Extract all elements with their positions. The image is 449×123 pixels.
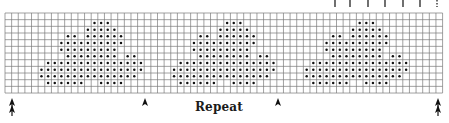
- stitch-dot: [87, 48, 90, 51]
- stitch-dot: [179, 75, 182, 78]
- stitch-dot: [87, 28, 90, 31]
- stitch-dot: [80, 48, 83, 51]
- stitch-dot: [378, 35, 381, 38]
- single-arrow-icon: [142, 98, 148, 106]
- stitch-dot: [312, 62, 315, 65]
- stitch-dot: [378, 55, 381, 58]
- stitch-dot: [272, 62, 275, 65]
- stitch-dot: [345, 82, 348, 85]
- stitch-dot: [107, 68, 110, 71]
- stitch-dot: [385, 82, 388, 85]
- stitch-dot: [345, 48, 348, 51]
- stitch-dot: [339, 48, 342, 51]
- stitch-dot: [239, 62, 242, 65]
- stitch-dot: [319, 75, 322, 78]
- stitch-dot: [392, 68, 395, 71]
- stitch-dot: [372, 28, 375, 31]
- stitch-dot: [312, 82, 315, 85]
- stitch-dot: [365, 68, 368, 71]
- stitch-dot: [365, 22, 368, 25]
- stitch-dot: [372, 82, 375, 85]
- stitch-dot: [365, 82, 368, 85]
- stitch-dot: [120, 62, 123, 65]
- stitch-dot: [107, 62, 110, 65]
- stitch-dot: [378, 48, 381, 51]
- stitch-dot: [53, 82, 56, 85]
- stitch-dot: [206, 62, 209, 65]
- stitch-dot: [385, 62, 388, 65]
- stitch-dot: [365, 28, 368, 31]
- stitch-dot: [73, 48, 76, 51]
- stitch-dot: [232, 28, 235, 31]
- stitch-dot: [345, 68, 348, 71]
- stitch-dot: [126, 62, 129, 65]
- stitch-dot: [345, 42, 348, 45]
- stitch-dot: [339, 55, 342, 58]
- stitch-dot: [186, 68, 189, 71]
- stitch-dot: [199, 82, 202, 85]
- stitch-dot: [80, 75, 83, 78]
- stitch-dot: [219, 28, 222, 31]
- stitch-dot: [272, 68, 275, 71]
- stitch-dot: [325, 48, 328, 51]
- stitch-dot: [107, 82, 110, 85]
- stitch-dot: [107, 48, 110, 51]
- stitch-dot: [60, 68, 63, 71]
- stitch-dot: [266, 55, 269, 58]
- stitch-dot: [358, 42, 361, 45]
- stitch-dot: [206, 82, 209, 85]
- stitch-dot: [372, 22, 375, 25]
- stitch-dot: [100, 62, 103, 65]
- stitch-dot: [226, 68, 229, 71]
- stitch-dot: [239, 75, 242, 78]
- stitch-dot: [126, 55, 129, 58]
- stitch-dot: [87, 68, 90, 71]
- stitch-dot: [93, 68, 96, 71]
- stitch-dot: [239, 55, 242, 58]
- stitch-dot: [372, 35, 375, 38]
- stitch-dot: [213, 68, 216, 71]
- stitch-dot: [232, 68, 235, 71]
- stitch-dot: [252, 68, 255, 71]
- stitch-dot: [246, 75, 249, 78]
- stitch-dot: [100, 75, 103, 78]
- stitch-dot: [199, 55, 202, 58]
- stitch-dot: [100, 22, 103, 25]
- stitch-dot: [405, 68, 408, 71]
- stitch-dot: [239, 28, 242, 31]
- stitch-dot: [365, 42, 368, 45]
- stitch-dot: [232, 55, 235, 58]
- stitch-dot: [100, 42, 103, 45]
- stitch-dot: [67, 55, 70, 58]
- stitch-dot: [266, 75, 269, 78]
- stitch-dot: [186, 62, 189, 65]
- stitch-dot: [47, 82, 50, 85]
- stitch-dot: [226, 62, 229, 65]
- stitch-dot: [226, 42, 229, 45]
- stitch-dot: [372, 48, 375, 51]
- stitch-dot: [332, 55, 335, 58]
- stitch-dot: [100, 28, 103, 31]
- stitch-dot: [345, 62, 348, 65]
- double-arrow-icon: [435, 98, 441, 116]
- stitch-dot: [358, 35, 361, 38]
- stitch-dot: [358, 28, 361, 31]
- stitch-dot: [252, 82, 255, 85]
- stitch-dot: [378, 62, 381, 65]
- stitch-dot: [173, 75, 176, 78]
- stitch-dot: [325, 42, 328, 45]
- stitch-dot: [67, 35, 70, 38]
- stitch-dot: [80, 62, 83, 65]
- stitch-dot: [345, 75, 348, 78]
- stitch-dot: [199, 48, 202, 51]
- stitch-dot: [60, 75, 63, 78]
- stitch-dot: [40, 68, 43, 71]
- stitch-dot: [140, 62, 143, 65]
- stitch-dot: [239, 22, 242, 25]
- stitch-dot: [372, 42, 375, 45]
- stitch-dot: [378, 68, 381, 71]
- stitch-dot: [352, 28, 355, 31]
- stitch-dot: [339, 82, 342, 85]
- top-tick-marks: [335, 0, 437, 7]
- stitch-dot: [206, 42, 209, 45]
